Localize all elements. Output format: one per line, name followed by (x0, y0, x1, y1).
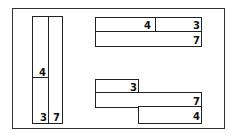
bottom-label-4: 4 (193, 112, 200, 122)
vertical-label-3: 3 (40, 113, 47, 123)
vertical-label-4: 4 (39, 68, 46, 78)
vertical-label-7: 7 (53, 113, 60, 123)
bottom-row-bar-7 (95, 31, 202, 47)
bottom-label-3: 3 (130, 83, 137, 93)
top-label-3: 3 (193, 21, 200, 31)
top-label-7: 7 (193, 36, 200, 46)
bottom-label-7: 7 (193, 97, 200, 107)
vertical-right-column-7 (48, 16, 63, 124)
top-label-4: 4 (144, 21, 151, 31)
